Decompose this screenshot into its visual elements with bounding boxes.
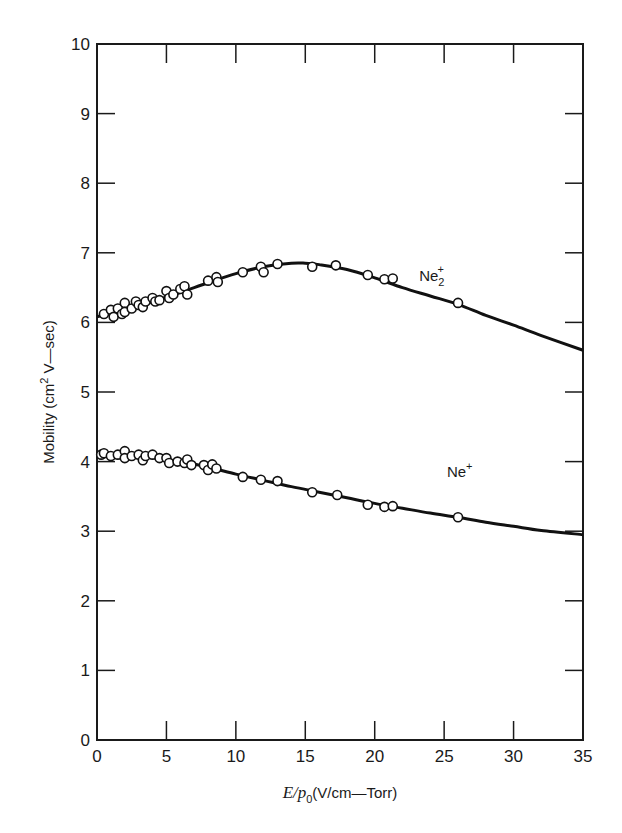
y-tick-label: 4 (81, 453, 90, 472)
data-point (388, 502, 397, 511)
axis-ticks: 05101520253035012345678910 (71, 35, 592, 766)
data-points (97, 259, 463, 521)
plot-axes (97, 44, 583, 740)
data-point (333, 491, 342, 500)
data-point (363, 271, 372, 280)
data-point (388, 274, 397, 283)
data-point (155, 296, 164, 305)
x-tick-label: 10 (226, 747, 245, 766)
x-tick-label: 5 (162, 747, 171, 766)
data-point (454, 298, 463, 307)
data-point (308, 488, 317, 497)
y-tick-label: 1 (81, 661, 90, 680)
data-point (331, 261, 340, 270)
x-tick-label: 35 (574, 747, 593, 766)
data-point (165, 458, 174, 467)
data-point (213, 278, 222, 287)
data-point (238, 268, 247, 277)
series-label-ne2-plus: Ne2+ (419, 263, 444, 288)
x-axis-label: E/p0(V/cm—Torr) (282, 783, 398, 805)
y-tick-label: 6 (81, 313, 90, 332)
mobility-chart: 05101520253035012345678910 Ne2+Ne+ Mobil… (0, 0, 622, 833)
data-point (308, 262, 317, 271)
data-point (273, 259, 282, 268)
data-point (212, 464, 221, 473)
data-point (363, 500, 372, 509)
data-point (183, 290, 192, 299)
data-point (454, 513, 463, 522)
y-axis-label: Mobility (cm2 V—sec) (38, 320, 57, 464)
curve-ne2-plus (97, 263, 583, 350)
x-tick-label: 30 (504, 747, 523, 766)
y-tick-label: 10 (71, 35, 90, 54)
y-tick-label: 8 (81, 174, 90, 193)
y-tick-label: 7 (81, 244, 90, 263)
x-tick-label: 0 (92, 747, 101, 766)
data-point (259, 268, 268, 277)
data-point (256, 475, 265, 484)
series-label-ne-plus: Ne+ (447, 460, 473, 480)
y-tick-label: 2 (81, 592, 90, 611)
x-tick-label: 25 (435, 747, 454, 766)
y-tick-label: 9 (81, 105, 90, 124)
data-point (187, 461, 196, 470)
y-tick-label: 5 (81, 383, 90, 402)
plot-frame (97, 44, 583, 740)
data-point (238, 472, 247, 481)
x-tick-label: 15 (296, 747, 315, 766)
y-tick-label: 3 (81, 522, 90, 541)
x-tick-label: 20 (365, 747, 384, 766)
data-point (273, 477, 282, 486)
y-tick-label: 0 (81, 731, 90, 750)
